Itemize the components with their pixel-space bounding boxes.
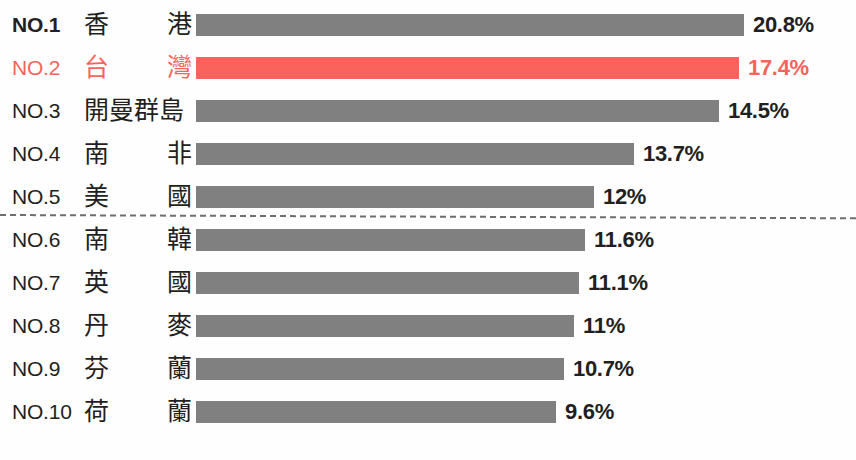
bar-area: 10.7% [196,347,856,390]
value-bar [196,100,719,122]
country-char: 香 [84,12,109,37]
value-bar [196,358,564,380]
chart-row: NO.6南韓11.6% [0,218,856,261]
chart-row: NO.1香港20.8% [0,3,856,46]
bar-area: 12% [196,175,856,218]
bar-area: 20.8% [196,3,856,46]
rank-label: NO.10 [0,400,78,424]
country-label: 丹麥 [78,313,196,338]
country-char: 英 [84,270,109,295]
value-bar [196,186,594,208]
bar-area: 13.7% [196,132,856,175]
country-char: 美 [84,184,109,209]
chart-row: NO.3開曼群島14.5% [0,89,856,132]
rank-label: NO.6 [0,228,78,252]
country-char: 蘭 [167,356,192,381]
bar-area: 14.5% [196,89,856,132]
chart-row: NO.7英國11.1% [0,261,856,304]
country-label: 台灣 [78,55,196,80]
value-label: 14.5% [728,98,789,124]
rank-label: NO.4 [0,142,78,166]
chart-row: NO.9芬蘭10.7% [0,347,856,390]
rank-label: NO.3 [0,99,78,123]
value-bar [196,14,744,36]
country-text: 開曼群島 [84,98,184,123]
value-bar [196,229,585,251]
chart-row: NO.10荷蘭9.6% [0,390,856,433]
value-bar [196,272,579,294]
country-char: 蘭 [167,399,192,424]
value-bar [196,143,634,165]
rank-label: NO.8 [0,314,78,338]
value-label: 17.4% [748,55,809,81]
bar-area: 11% [196,304,856,347]
country-label: 香港 [78,12,196,37]
value-bar [196,57,739,79]
country-char: 國 [167,184,192,209]
country-char: 麥 [167,313,192,338]
country-char: 韓 [167,227,192,252]
country-label: 芬蘭 [78,356,196,381]
ranking-bar-chart: NO.1香港20.8%NO.2台灣17.4%NO.3開曼群島14.5%NO.4南… [0,0,856,460]
country-char: 芬 [84,356,109,381]
rank-label: NO.5 [0,185,78,209]
country-char: 港 [167,12,192,37]
value-label: 11.1% [588,270,648,296]
country-char: 國 [167,270,192,295]
rank-label: NO.9 [0,357,78,381]
country-label: 美國 [78,184,196,209]
country-char: 非 [167,141,192,166]
chart-row: NO.2台灣17.4% [0,46,856,89]
value-bar [196,401,556,423]
value-label: 9.6% [565,399,614,425]
value-label: 20.8% [753,12,814,38]
chart-row: NO.4南非13.7% [0,132,856,175]
rank-label: NO.7 [0,271,78,295]
country-label: 開曼群島 [78,98,196,123]
value-label: 11% [583,313,625,339]
bar-area: 9.6% [196,390,856,433]
country-char: 灣 [167,55,192,80]
value-label: 12% [603,184,646,210]
country-char: 台 [84,55,109,80]
chart-row: NO.8丹麥11% [0,304,856,347]
country-char: 丹 [84,313,109,338]
bar-area: 11.1% [196,261,856,304]
country-char: 南 [84,227,109,252]
value-label: 13.7% [643,141,704,167]
value-label: 10.7% [573,356,634,382]
rank-label: NO.1 [0,13,78,37]
value-label: 11.6% [594,227,654,253]
country-label: 英國 [78,270,196,295]
bar-area: 17.4% [196,46,856,89]
country-label: 南非 [78,141,196,166]
rank-label: NO.2 [0,56,78,80]
country-char: 荷 [84,399,109,424]
bar-area: 11.6% [196,218,856,261]
chart-row: NO.5美國12% [0,175,856,218]
country-char: 南 [84,141,109,166]
value-bar [196,315,574,337]
country-label: 荷蘭 [78,399,196,424]
country-label: 南韓 [78,227,196,252]
